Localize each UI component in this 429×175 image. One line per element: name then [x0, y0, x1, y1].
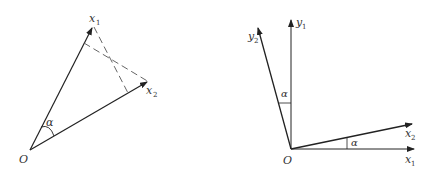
x1-label: x — [89, 12, 96, 25]
angle-label-top: α — [281, 88, 288, 99]
y2-subscript: 2 — [254, 37, 258, 45]
angle-label-bottom: α — [351, 137, 358, 148]
origin-label: O — [19, 153, 28, 166]
right-diagram: α α O y 1 y 2 x 2 x 1 — [247, 16, 415, 168]
y1-subscript: 1 — [302, 23, 306, 31]
x2-subscript: 2 — [411, 134, 415, 142]
x2-subscript: 2 — [153, 91, 157, 99]
angle-label: α — [46, 116, 54, 129]
diagram-canvas: α O x 1 x 2 α α O y 1 y 2 x 2 x 1 — [0, 0, 429, 175]
x1-subscript: 1 — [96, 19, 100, 27]
dashed-line-2 — [94, 27, 128, 93]
x1-subscript: 1 — [411, 160, 415, 168]
origin-label: O — [283, 154, 292, 167]
dashed-line-1 — [84, 43, 149, 82]
x2-label: x — [146, 84, 153, 97]
left-diagram: α O x 1 x 2 — [19, 12, 157, 166]
